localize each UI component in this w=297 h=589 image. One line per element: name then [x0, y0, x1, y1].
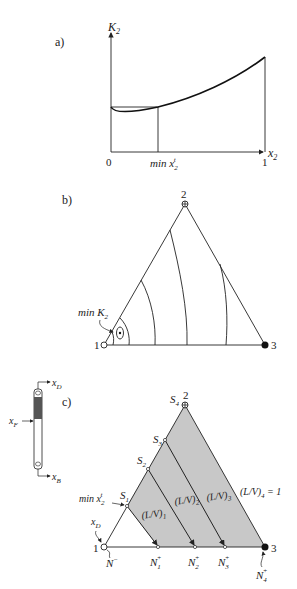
xb-label: xB — [51, 471, 61, 485]
vertex-3-label: 3 — [271, 339, 277, 351]
s2-point — [146, 467, 149, 470]
k2-curve — [111, 57, 265, 112]
vertex-1-label-c: 1 — [93, 542, 99, 554]
shaded-region — [127, 405, 265, 547]
min-x2-label-c: min x2t — [79, 491, 105, 507]
xd-label: xD — [51, 377, 62, 391]
panel-c-label: c) — [62, 395, 71, 409]
xd-arrow — [96, 531, 101, 542]
min-k2-arrow — [100, 320, 113, 332]
panel-a: a) K2 x2 0 1 min x2t — [55, 20, 277, 172]
xd-vertex-label: xD — [90, 516, 101, 530]
panel-b-label: b) — [62, 193, 72, 207]
n2-point — [193, 545, 196, 548]
contour-line — [170, 230, 187, 345]
diagram-canvas: a) K2 x2 0 1 min x2t b) 2 1 3 — [0, 0, 297, 589]
vertex-1-marker — [101, 342, 107, 348]
vertex-2-label-c: 2 — [183, 389, 189, 401]
vertex-3-marker — [262, 342, 269, 349]
s1-point — [125, 504, 128, 507]
panel-c: c) xD xF xB — [8, 377, 281, 584]
n4-label: N4+ — [255, 567, 268, 584]
min-k2-point — [119, 332, 121, 334]
lv4-label: (L/V)4 = 1 — [240, 486, 281, 500]
vertex-3-label-c: 3 — [271, 542, 277, 554]
vertex-2-label: 2 — [181, 188, 187, 200]
min-k2-label: min K2 — [78, 306, 109, 321]
ternary-triangle — [104, 204, 265, 345]
panel-b: b) 2 1 3 min K2 — [62, 188, 277, 351]
contour-line — [141, 280, 155, 345]
y-axis-label: K2 — [107, 20, 120, 36]
s2-label: S2 — [137, 454, 147, 469]
n4-arrow — [261, 552, 263, 567]
n2-label: N2+ — [187, 554, 200, 571]
vertex-1-marker-c — [101, 544, 107, 550]
n1-point — [156, 545, 159, 548]
contour-line — [112, 332, 114, 345]
min-x2-label: min x2t — [150, 156, 178, 172]
s3-label: S3 — [153, 433, 163, 448]
panel-a-label: a) — [55, 35, 64, 49]
n3-point — [223, 545, 226, 548]
n-minus-label: N− — [105, 556, 118, 569]
s4-label: S4 — [170, 393, 180, 408]
vertex-3-marker-c — [262, 544, 269, 551]
vertex-1-label: 1 — [94, 339, 100, 351]
s3-point — [163, 438, 166, 441]
x-axis-label: x2 — [267, 146, 277, 162]
contour-line — [120, 318, 129, 345]
origin-label: 0 — [106, 156, 112, 168]
distillation-column: xD xF xB — [8, 377, 62, 485]
n3-label: N3+ — [217, 554, 230, 571]
n1-label: N1+ — [149, 554, 162, 571]
min-x2-arrow — [112, 503, 124, 505]
x-end-label: 1 — [262, 156, 268, 168]
column-packing — [34, 397, 42, 419]
xf-label: xF — [8, 415, 18, 429]
s1-label: S1 — [120, 489, 129, 504]
